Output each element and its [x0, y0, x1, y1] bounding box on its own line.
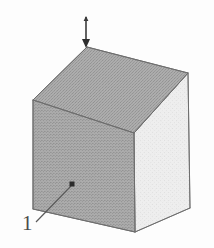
cube-shape [33, 47, 190, 232]
top-arrow-head-icon [82, 39, 90, 48]
top-arrow [82, 16, 90, 48]
figure-canvas: 1 [0, 0, 214, 248]
top-arrow-tail-cap-icon [84, 16, 89, 21]
callout-1-label: 1 [22, 213, 33, 234]
callout-1-marker-dot [70, 182, 75, 187]
